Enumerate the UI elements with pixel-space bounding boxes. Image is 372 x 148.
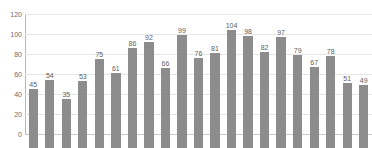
y-axis-tick-label: 80 bbox=[2, 51, 22, 58]
bar[interactable] bbox=[276, 37, 285, 148]
bar[interactable] bbox=[210, 53, 219, 148]
bar-value-label: 104 bbox=[226, 22, 238, 29]
bar[interactable] bbox=[343, 83, 352, 148]
bar-value-label: 79 bbox=[294, 47, 302, 54]
bar-value-label: 53 bbox=[79, 73, 87, 80]
bars-layer: 4554355375618692669976811049882977967785… bbox=[25, 14, 372, 148]
y-axis-tick-label: 0 bbox=[2, 131, 22, 138]
bar-value-label: 51 bbox=[343, 75, 351, 82]
bar[interactable] bbox=[128, 48, 137, 148]
bar-group[interactable]: 86 bbox=[128, 14, 137, 148]
bar-group[interactable]: 53 bbox=[78, 14, 87, 148]
bar[interactable] bbox=[194, 58, 203, 148]
bar-value-label: 78 bbox=[327, 48, 335, 55]
bar-group[interactable]: 99 bbox=[177, 14, 186, 148]
bar-group[interactable]: 97 bbox=[276, 14, 285, 148]
bar[interactable] bbox=[45, 80, 54, 148]
bar-group[interactable]: 78 bbox=[326, 14, 335, 148]
bar-group[interactable]: 76 bbox=[194, 14, 203, 148]
bar-group[interactable]: 75 bbox=[95, 14, 104, 148]
bar-chart: 120100806040200 455435537561869266997681… bbox=[0, 0, 372, 148]
bar[interactable] bbox=[161, 68, 170, 148]
bar-group[interactable]: 81 bbox=[210, 14, 219, 148]
bar[interactable] bbox=[111, 73, 120, 148]
bar[interactable] bbox=[227, 30, 236, 148]
bar-value-label: 76 bbox=[195, 50, 203, 57]
bar-value-label: 75 bbox=[95, 51, 103, 58]
bar-group[interactable]: 54 bbox=[45, 14, 54, 148]
bar-group[interactable]: 49 bbox=[359, 14, 368, 148]
bar-group[interactable]: 98 bbox=[243, 14, 252, 148]
bar-value-label: 92 bbox=[145, 34, 153, 41]
bar[interactable] bbox=[144, 42, 153, 148]
bar-value-label: 86 bbox=[128, 40, 136, 47]
y-axis-tick-label: 60 bbox=[2, 71, 22, 78]
bar[interactable] bbox=[293, 55, 302, 148]
bar[interactable] bbox=[260, 52, 269, 148]
bar-group[interactable]: 66 bbox=[161, 14, 170, 148]
bar-group[interactable]: 67 bbox=[310, 14, 319, 148]
y-axis-tick-label: 40 bbox=[2, 91, 22, 98]
bar[interactable] bbox=[326, 56, 335, 148]
bar-value-label: 97 bbox=[277, 29, 285, 36]
bar[interactable] bbox=[62, 99, 71, 148]
y-axis-tick-label: 100 bbox=[2, 31, 22, 38]
bar-group[interactable]: 79 bbox=[293, 14, 302, 148]
bar-group[interactable]: 35 bbox=[62, 14, 71, 148]
bar-value-label: 98 bbox=[244, 28, 252, 35]
bar-value-label: 61 bbox=[112, 65, 120, 72]
bar-value-label: 82 bbox=[261, 44, 269, 51]
bar-value-label: 54 bbox=[46, 72, 54, 79]
bar-value-label: 81 bbox=[211, 45, 219, 52]
y-axis-tick-labels: 120100806040200 bbox=[0, 14, 22, 134]
bar-value-label: 99 bbox=[178, 27, 186, 34]
bar-value-label: 66 bbox=[162, 60, 170, 67]
bar[interactable] bbox=[310, 67, 319, 148]
bar-group[interactable]: 45 bbox=[29, 14, 38, 148]
bar-group[interactable]: 51 bbox=[343, 14, 352, 148]
bar-group[interactable]: 82 bbox=[260, 14, 269, 148]
bar[interactable] bbox=[29, 89, 38, 148]
y-axis-tick-label: 20 bbox=[2, 111, 22, 118]
bar[interactable] bbox=[243, 36, 252, 148]
bar[interactable] bbox=[177, 35, 186, 148]
bar-value-label: 45 bbox=[29, 81, 37, 88]
bar[interactable] bbox=[78, 81, 87, 148]
bar-group[interactable]: 104 bbox=[227, 14, 236, 148]
bar[interactable] bbox=[95, 59, 104, 148]
y-axis-tick-label: 120 bbox=[2, 11, 22, 18]
bar-value-label: 67 bbox=[310, 59, 318, 66]
bar-group[interactable]: 92 bbox=[144, 14, 153, 148]
bar-value-label: 49 bbox=[360, 77, 368, 84]
bar-group[interactable]: 61 bbox=[111, 14, 120, 148]
bar-value-label: 35 bbox=[62, 91, 70, 98]
bar[interactable] bbox=[359, 85, 368, 148]
